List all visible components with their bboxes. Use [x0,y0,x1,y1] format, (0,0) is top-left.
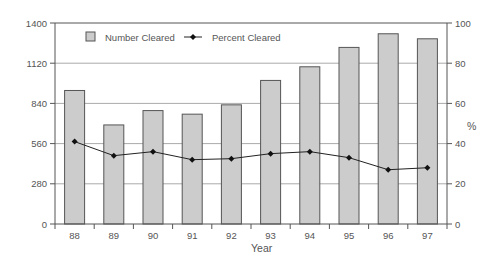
bar [221,105,241,224]
left-tick-label: 1120 [27,58,47,69]
right-axis-title: % [467,120,476,132]
legend: Number Cleared Percent Cleared [86,32,281,43]
right-tick-label: 40 [455,138,466,149]
x-tick-label: 97 [422,230,433,241]
x-axis-title: Year [251,242,273,254]
x-tick-label: 93 [265,230,276,241]
right-tick-label: 60 [455,98,466,109]
bar [339,47,359,224]
percent-line [75,142,428,170]
x-tick-label: 89 [109,230,120,241]
combo-chart: 028056084011201400 020406080100 88899091… [0,0,503,266]
bar [104,125,124,224]
left-y-axis: 028056084011201400 [26,18,55,230]
left-tick-label: 1400 [26,18,47,29]
x-tick-label: 90 [148,230,159,241]
x-tick-label: 96 [383,230,394,241]
x-tick-label: 91 [187,230,198,241]
right-tick-label: 0 [455,219,460,230]
right-tick-label: 20 [455,178,466,189]
left-tick-label: 280 [31,178,47,189]
right-tick-label: 100 [455,18,471,29]
left-tick-label: 0 [42,219,47,230]
x-tick-label: 95 [344,230,355,241]
legend-bar-label: Number Cleared [105,32,175,43]
left-tick-label: 560 [31,138,47,149]
bar [378,34,398,224]
bar-series-number-cleared [65,34,438,224]
x-tick-label: 88 [69,230,80,241]
legend-diamond-marker-icon [190,34,196,40]
right-tick-label: 80 [455,58,466,69]
bar [65,90,85,224]
bar [417,39,437,224]
legend-line-label: Percent Cleared [212,32,281,43]
x-axis: 88899091929394959697 [55,224,447,241]
legend-bar-swatch-icon [86,32,95,41]
bar [300,67,320,224]
bar [182,114,202,224]
bar [143,111,163,224]
x-tick-label: 92 [226,230,237,241]
left-tick-label: 840 [31,98,47,109]
x-tick-label: 94 [305,230,316,241]
